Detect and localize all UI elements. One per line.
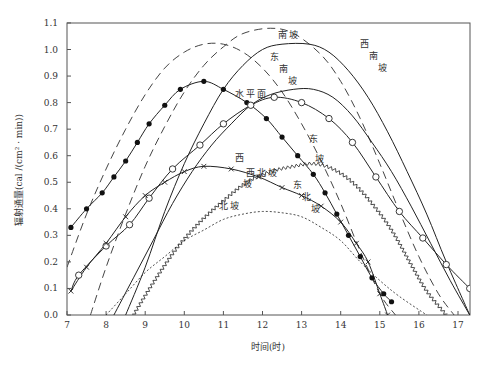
svg-text:面: 面 <box>257 89 266 99</box>
svg-text:坡: 坡 <box>311 203 320 214</box>
series-horizontal-marker <box>349 139 355 145</box>
y-tick-label: 0.5 <box>44 177 59 187</box>
svg-text:北: 北 <box>219 201 228 211</box>
series-northeast-marker <box>69 289 74 294</box>
series-horizontal-marker <box>420 235 426 241</box>
marker-layer <box>68 79 473 318</box>
series-east-marker <box>358 254 363 259</box>
series-east-marker <box>84 206 89 211</box>
series-south-label: 南坡 <box>278 29 298 40</box>
series-northeast-marker <box>366 260 371 265</box>
series-horizontal-marker <box>373 174 379 180</box>
x-tick-label: 10 <box>179 320 191 330</box>
series-east-marker <box>346 233 351 238</box>
y-tick-label: 0.8 <box>44 98 59 108</box>
series-east-marker <box>221 87 226 92</box>
y-tick-label: 0.6 <box>44 151 59 161</box>
series-east-marker <box>178 87 183 92</box>
y-tick-label: 1.1 <box>44 18 58 28</box>
y-tick-label: 1.0 <box>44 45 59 55</box>
series-east-marker <box>147 121 152 126</box>
x-tick-label: 9 <box>142 320 148 330</box>
x-axis-ticks: 7891011121314151617 <box>64 311 464 330</box>
series-east-marker <box>264 116 269 121</box>
series-east-marker <box>311 172 316 177</box>
series-east-label: 东坡 <box>309 133 324 164</box>
svg-text:东: 东 <box>293 179 302 190</box>
series-northeast-marker <box>182 169 187 174</box>
svg-text:坡: 坡 <box>378 62 387 73</box>
series-east-marker <box>201 79 206 84</box>
series-horizontal-marker <box>443 261 449 267</box>
series-horizontal-marker <box>248 102 254 108</box>
y-axis-title: 辐射通量(cal /(cm² · min)) <box>13 114 24 226</box>
svg-text:西: 西 <box>246 168 255 178</box>
series-north-label: 北坡 <box>219 200 239 211</box>
svg-text:坡: 坡 <box>243 178 252 189</box>
series-west-line <box>114 88 470 315</box>
series-southeast-line <box>67 43 395 315</box>
series-east-marker <box>322 190 327 195</box>
x-axis-title: 时间(时) <box>251 341 285 352</box>
y-tick-label: 0.3 <box>44 230 59 240</box>
svg-text:北: 北 <box>257 168 266 178</box>
series-east-marker <box>68 225 73 230</box>
y-tick-label: 0.0 <box>44 310 59 320</box>
series-east-marker <box>279 135 284 140</box>
x-tick-label: 12 <box>257 320 268 330</box>
svg-text:坡: 坡 <box>288 75 297 86</box>
series-horizontal-marker <box>271 94 277 100</box>
series-labels: 南坡东南坡西南坡东坡水平面西坡东北坡西北坡北坡 <box>219 29 387 214</box>
svg-text:坡: 坡 <box>289 29 298 40</box>
svg-text:平: 平 <box>246 89 255 99</box>
svg-text:坡: 坡 <box>230 200 239 211</box>
chart: 0.00.10.20.30.40.50.60.70.80.91.01.1 789… <box>0 0 485 365</box>
series-southwest-label: 西南坡 <box>360 39 387 73</box>
series-horizontal-marker <box>126 222 132 228</box>
series-northeast-marker <box>162 180 167 185</box>
svg-text:南: 南 <box>369 50 378 61</box>
series-horizontal-marker <box>146 195 152 201</box>
svg-text:西: 西 <box>360 39 369 49</box>
x-tick-label: 8 <box>103 320 109 330</box>
series-northeast-marker <box>280 185 285 190</box>
svg-text:南: 南 <box>279 63 288 74</box>
svg-text:西: 西 <box>235 153 244 163</box>
series-east-marker <box>123 158 128 163</box>
series-north-line <box>106 211 427 315</box>
series-horizontal-marker <box>467 285 473 291</box>
y-tick-label: 0.2 <box>44 257 58 267</box>
y-tick-label: 0.9 <box>44 71 59 81</box>
x-tick-label: 11 <box>218 320 229 330</box>
svg-text:东: 东 <box>309 133 318 144</box>
series-northwest-line <box>132 162 447 314</box>
series-northeast-label: 东北坡 <box>293 179 320 214</box>
svg-text:南: 南 <box>278 29 287 40</box>
series-horizontal-marker <box>326 115 332 121</box>
y-tick-label: 0.7 <box>44 124 59 134</box>
svg-text:坡: 坡 <box>268 167 277 178</box>
series-east-marker <box>100 190 105 195</box>
series-northwest-label: 西北坡 <box>246 167 277 178</box>
series-east-marker <box>135 140 140 145</box>
y-tick-label: 0.1 <box>44 283 58 293</box>
series-horizontal-marker <box>298 99 304 105</box>
series-horizontal-marker <box>220 121 226 127</box>
series-horizontal-line <box>71 97 470 291</box>
series-east-marker <box>369 275 374 280</box>
y-tick-label: 0.4 <box>44 204 59 214</box>
series-horizontal-marker <box>197 142 203 148</box>
series-east-marker <box>389 299 394 304</box>
x-tick-label: 7 <box>64 320 70 330</box>
series-horizontal-marker <box>169 166 175 172</box>
series-horizontal-label: 水平面 <box>235 88 266 99</box>
series-east-marker <box>111 174 116 179</box>
x-tick-label: 15 <box>374 320 386 330</box>
series-horizontal-marker <box>76 272 82 278</box>
x-tick-label: 16 <box>413 320 425 330</box>
series-east-marker <box>162 103 167 108</box>
x-tick-label: 14 <box>335 320 347 330</box>
svg-text:坡: 坡 <box>315 153 324 164</box>
svg-text:东: 东 <box>270 51 279 62</box>
x-tick-label: 17 <box>452 320 464 330</box>
